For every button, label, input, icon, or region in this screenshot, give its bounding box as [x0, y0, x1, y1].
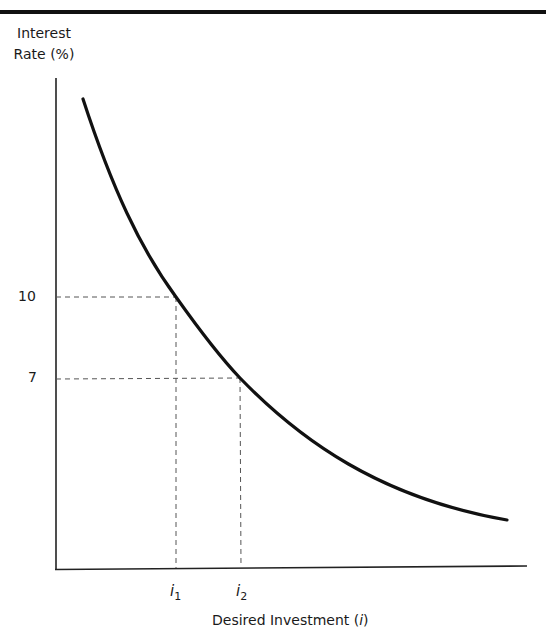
y-tick-7: 7: [28, 369, 37, 385]
x-axis: [55, 566, 527, 570]
y-axis-label-line1: Interest: [12, 23, 76, 44]
y-axis-label-line2: Rate (%): [12, 44, 76, 65]
x-axis-label: Desired Investment (i): [212, 612, 369, 628]
chart-plot: [0, 0, 546, 643]
ref-line-i2: [240, 378, 241, 567]
ref-line-y7: [56, 378, 240, 379]
reference-lines: [56, 297, 241, 568]
y-axis-label: Interest Rate (%): [12, 23, 76, 65]
investment-demand-curve: [83, 99, 507, 520]
x-tick-i2: i2: [236, 582, 247, 603]
y-tick-10: 10: [18, 288, 36, 304]
x-tick-i1: i1: [170, 582, 181, 603]
